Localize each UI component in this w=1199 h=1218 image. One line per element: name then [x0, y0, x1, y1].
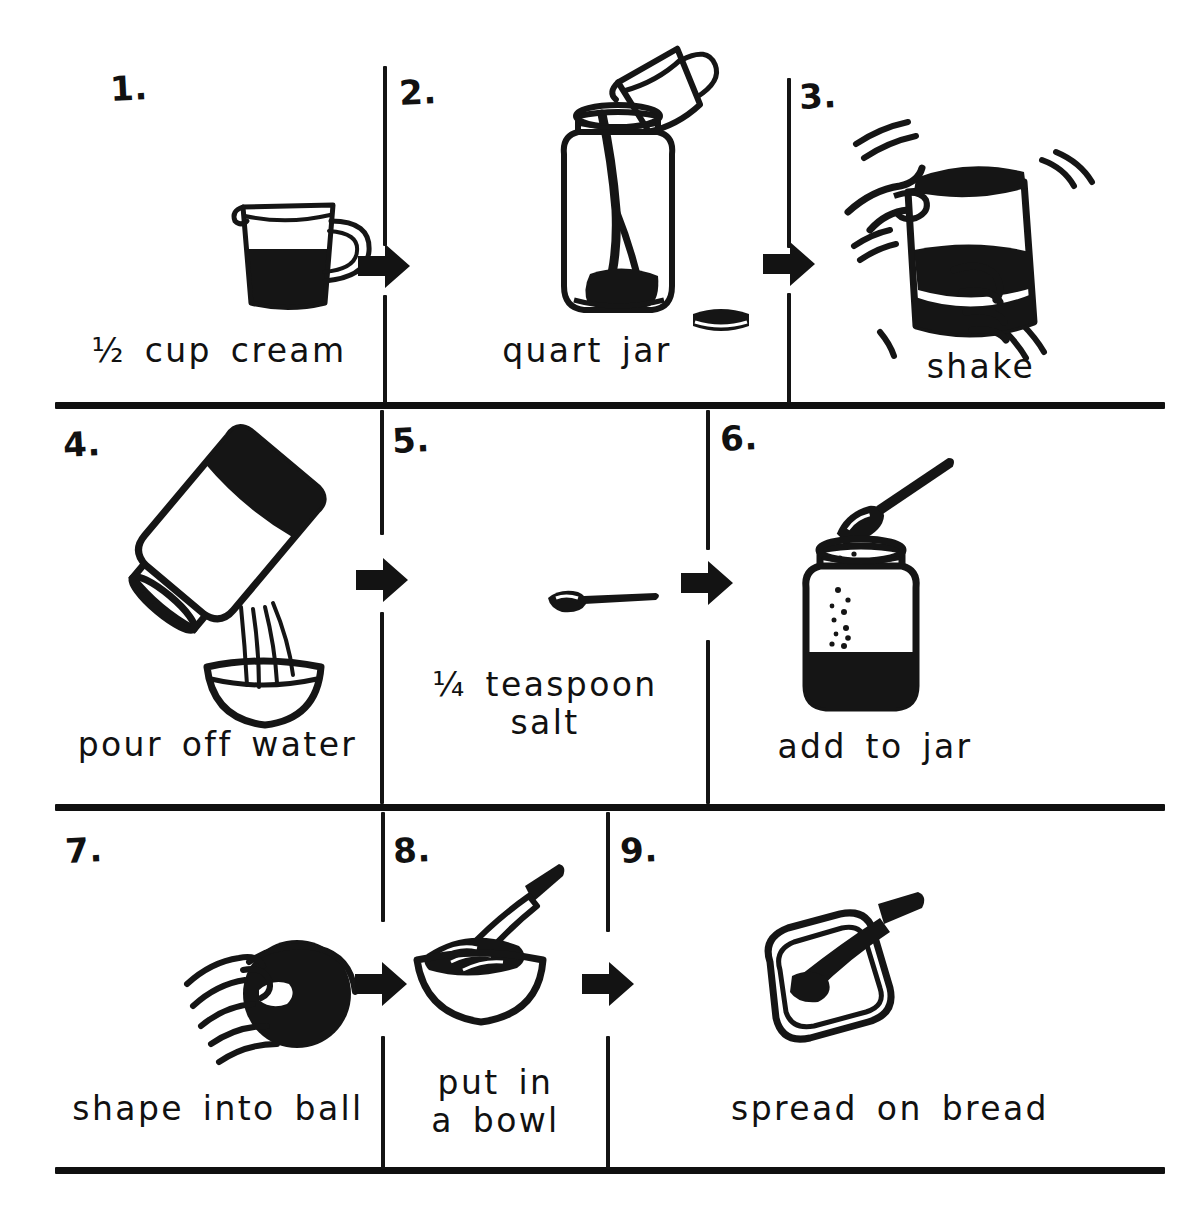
- spoon-salting-jar-icon: [770, 440, 1030, 730]
- step-caption-8: put in a bowl: [385, 1064, 606, 1141]
- step-number-6: 6.: [719, 417, 759, 459]
- step-number-5: 5.: [391, 419, 431, 461]
- step-caption-6: add to jar: [710, 728, 1040, 766]
- bottom-border: [55, 1167, 1165, 1174]
- step-caption-4: pour off water: [45, 726, 390, 764]
- step-caption-3: shake: [821, 348, 1141, 386]
- row-divider-2: [55, 804, 1165, 811]
- jar-pouring-icon: [482, 50, 772, 340]
- step-caption-1: ½ cup cream: [55, 332, 383, 370]
- step-cell-7: 7. shape into ball: [55, 812, 381, 1167]
- row-divider-1: [55, 402, 1165, 409]
- step-cell-1: 1. ½ cup cream: [55, 40, 383, 402]
- step-cell-9: 9. spread on bread: [610, 812, 1165, 1167]
- step-caption-7: shape into ball: [47, 1090, 389, 1128]
- step-number-7: 7.: [64, 829, 104, 871]
- step-cell-8: 8. put in a bowl: [385, 812, 606, 1167]
- step-caption-5: ¼ teaspoon salt: [384, 666, 706, 743]
- step-cell-5: 5. ¼ teaspoon salt: [384, 410, 706, 804]
- step-number-3: 3.: [798, 75, 838, 117]
- bread-with-knife-icon: [740, 892, 960, 1072]
- step-cell-3: 3.: [791, 40, 1165, 402]
- step-caption-2: quart jar: [417, 332, 757, 370]
- step-caption-9: spread on bread: [650, 1090, 1130, 1128]
- teaspoon-icon: [544, 582, 664, 622]
- bowl-with-knife-icon: [407, 862, 607, 1032]
- step-cell-6: 6.: [710, 410, 1165, 804]
- step-number-2: 2.: [398, 71, 438, 113]
- step-cell-2: 2.: [387, 40, 787, 402]
- hands-shaking-jar-icon: [846, 100, 1136, 380]
- step-number-1: 1.: [109, 67, 149, 109]
- recipe-sheet: 1. ½ cup cream 2.: [0, 0, 1199, 1218]
- step-cell-4: 4.: [55, 410, 380, 804]
- step-number-9: 9.: [619, 829, 659, 871]
- jar-pouring-water-icon: [95, 435, 395, 735]
